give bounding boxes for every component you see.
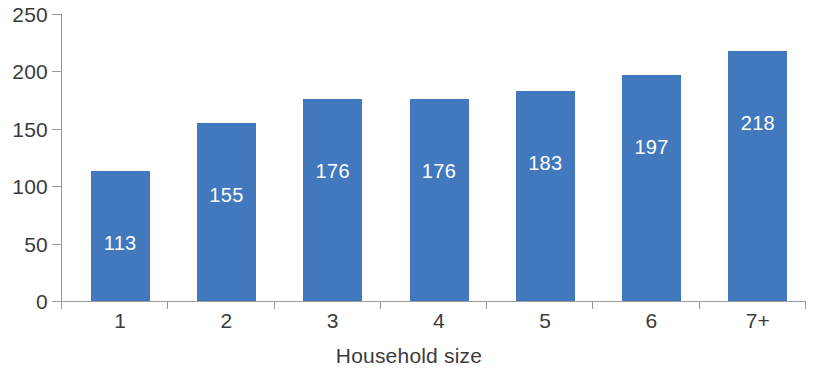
bar-value-label: 183 bbox=[516, 153, 575, 173]
bar-value-label: 218 bbox=[728, 113, 787, 133]
y-axis-tick bbox=[52, 129, 61, 130]
x-axis-tick bbox=[805, 301, 806, 309]
bars-container: 113155176176183197218 bbox=[61, 14, 805, 301]
bar[interactable]: 113 bbox=[91, 171, 150, 301]
y-axis-tick bbox=[52, 14, 61, 15]
y-axis-tick bbox=[52, 301, 61, 302]
x-axis-tick-label: 5 bbox=[505, 310, 585, 331]
x-axis-tick bbox=[592, 301, 593, 309]
x-axis-tick-label: 6 bbox=[612, 310, 692, 331]
bar-value-label: 197 bbox=[622, 137, 681, 157]
bar-chart: 050100150200250 113155176176183197218 12… bbox=[0, 0, 818, 377]
x-axis-tick-label: 2 bbox=[186, 310, 266, 331]
bar[interactable]: 176 bbox=[303, 99, 362, 301]
y-axis-tick-label: 200 bbox=[0, 61, 48, 82]
bar[interactable]: 183 bbox=[516, 91, 575, 301]
bar-value-label: 155 bbox=[197, 185, 256, 205]
y-axis-tick-label: 0 bbox=[0, 291, 48, 312]
x-axis-tick bbox=[486, 301, 487, 309]
bar-value-label: 176 bbox=[303, 161, 362, 181]
y-axis-tick-label: 50 bbox=[0, 233, 48, 254]
bar[interactable]: 155 bbox=[197, 123, 256, 301]
x-axis-line bbox=[61, 301, 805, 302]
x-axis-tick-label: 4 bbox=[399, 310, 479, 331]
x-axis-tick bbox=[699, 301, 700, 309]
y-axis-tick bbox=[52, 71, 61, 72]
bar[interactable]: 218 bbox=[728, 51, 787, 301]
x-axis-tick-label: 3 bbox=[293, 310, 373, 331]
x-axis-tick bbox=[61, 301, 62, 309]
bar-value-label: 176 bbox=[410, 161, 469, 181]
x-axis-tick bbox=[167, 301, 168, 309]
x-axis-tick bbox=[274, 301, 275, 309]
bar[interactable]: 176 bbox=[410, 99, 469, 301]
y-axis-tick bbox=[52, 186, 61, 187]
x-axis-tick bbox=[380, 301, 381, 309]
x-axis-tick-label: 1 bbox=[80, 310, 160, 331]
bar[interactable]: 197 bbox=[622, 75, 681, 301]
y-axis-tick bbox=[52, 244, 61, 245]
x-axis-title: Household size bbox=[0, 345, 818, 366]
y-axis-tick-label: 250 bbox=[0, 4, 48, 25]
y-axis-tick-label: 100 bbox=[0, 176, 48, 197]
y-axis-tick-label: 150 bbox=[0, 118, 48, 139]
x-axis-tick-label: 7+ bbox=[718, 310, 798, 331]
bar-value-label: 113 bbox=[91, 233, 150, 253]
